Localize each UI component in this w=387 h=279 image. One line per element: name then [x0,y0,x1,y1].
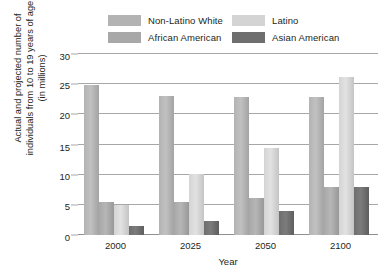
legend-item-latino: Latino [232,15,376,26]
bar-2100-latino [339,77,354,235]
x-tick-label-2050: 2050 [255,240,276,252]
x-tick-label-2025: 2025 [180,240,201,252]
bar-2000-latino [114,205,129,235]
y-tick-label-0: 0 [65,233,70,238]
y-tick-label-5: 5 [65,202,70,207]
bar-2025-non-latino-white [159,96,174,235]
bar-2025-african-american [174,202,189,235]
chart-figure: Non-Latino White Latino African American… [0,0,387,279]
bar-2050-african-american [249,198,264,235]
bar-2025-latino [189,174,204,235]
x-axis-labels: 2000202520502100 [78,240,378,254]
bar-2100-asian-american [354,187,369,235]
y-tick-label-15: 15 [59,142,70,147]
bar-2100-non-latino-white [309,97,324,235]
bar-2050-non-latino-white [234,97,249,235]
bar-2000-asian-american [129,226,144,235]
x-axis-title: Year [78,256,378,267]
legend-swatch-african-american [108,32,141,43]
y-tick-label-25: 25 [59,82,70,87]
y-tick-label-30: 30 [59,52,70,57]
bar-2050-asian-american [279,211,294,235]
bar-2000-african-american [99,202,114,235]
bar-2100-african-american [324,187,339,235]
y-axis-labels: 051015202530 [0,54,78,235]
bar-groups [78,54,378,235]
legend-label-asian-american: Asian American [272,32,339,43]
y-tick-label-20: 20 [59,112,70,117]
legend-item-non-latino-white: Non-Latino White [108,15,232,26]
legend-label-non-latino-white: Non-Latino White [148,15,223,26]
x-tick-label-2000: 2000 [105,240,126,252]
y-tick-mark-10 [71,174,78,175]
legend-label-latino: Latino [272,15,298,26]
bar-group-2025 [159,54,223,235]
x-tick-label-2100: 2100 [330,240,351,252]
legend-swatch-non-latino-white [108,15,141,26]
bar-group-2100 [309,54,373,235]
legend-item-african-american: African American [108,32,232,43]
chart-legend: Non-Latino White Latino African American… [108,12,376,46]
legend-item-asian-american: Asian American [232,32,376,43]
y-tick-mark-15 [71,144,78,145]
legend-label-african-american: African American [148,32,221,43]
bar-2025-asian-american [204,221,219,235]
legend-swatch-latino [232,15,265,26]
y-tick-mark-0 [71,235,78,236]
plot-area [78,54,378,235]
legend-swatch-asian-american [232,32,265,43]
bar-2050-latino [264,148,279,235]
bar-group-2050 [234,54,298,235]
y-tick-mark-5 [71,204,78,205]
y-tick-mark-20 [71,114,78,115]
y-tick-mark-25 [71,84,78,85]
y-tick-mark-30 [71,54,78,55]
bar-group-2000 [84,54,148,235]
bar-2000-non-latino-white [84,85,99,235]
y-tick-label-10: 10 [59,172,70,177]
